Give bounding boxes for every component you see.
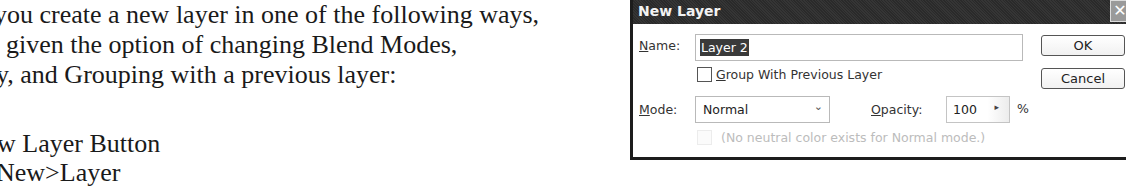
opacity-label: Opacity:: [871, 102, 922, 117]
close-button[interactable]: ✕: [1110, 0, 1126, 22]
fill-neutral-color-checkbox-disabled: [697, 130, 712, 145]
new-layer-dialog: New Layer ✕ Name: Layer 2 Group With Pre…: [630, 0, 1126, 160]
mode-select-value: Normal: [703, 102, 748, 117]
group-label-text: roup With Previous Layer: [726, 67, 882, 82]
mode-label-mnemonic: M: [639, 102, 650, 117]
neutral-color-hint: (No neutral color exists for Normal mode…: [721, 130, 985, 145]
name-label: Name:: [639, 38, 680, 53]
close-icon: ✕: [1113, 1, 1126, 20]
group-with-previous-checkbox[interactable]: [697, 67, 712, 82]
mode-select[interactable]: Normal ⌄: [695, 96, 830, 123]
mode-label-text: ode:: [650, 102, 677, 117]
dialog-titlebar[interactable]: New Layer ✕: [633, 0, 1126, 24]
percent-unit: %: [1017, 101, 1029, 116]
chevron-down-icon[interactable]: ⌄: [814, 100, 823, 113]
group-with-previous-label[interactable]: Group With Previous Layer: [716, 67, 882, 82]
opacity-slider-arrow-icon[interactable]: ▸: [994, 102, 999, 112]
paragraph-line-3: y, and Grouping with a previous layer:: [0, 62, 397, 88]
opacity-label-text: pacity:: [881, 102, 923, 117]
list-item-new-layer-button: w Layer Button: [0, 131, 160, 157]
group-label-mnemonic: G: [716, 67, 726, 82]
dialog-title: New Layer: [638, 3, 720, 19]
list-item-new-layer-menu: New>Layer: [0, 160, 120, 186]
mode-label: Mode:: [639, 102, 677, 117]
ok-button[interactable]: OK: [1041, 35, 1125, 56]
paragraph-line-1: you create a new layer in one of the fol…: [0, 2, 539, 28]
name-input-value: Layer 2: [700, 39, 749, 56]
opacity-input[interactable]: 100 ▸: [946, 96, 1010, 123]
name-input[interactable]: Layer 2: [695, 34, 1023, 61]
opacity-input-value: 100: [953, 102, 977, 117]
paragraph-line-2: given the option of changing Blend Modes…: [6, 32, 457, 58]
cancel-button[interactable]: Cancel: [1041, 68, 1125, 89]
opacity-label-mnemonic: O: [871, 102, 881, 117]
name-label-text: ame:: [648, 38, 680, 53]
name-label-mnemonic: N: [639, 38, 648, 53]
